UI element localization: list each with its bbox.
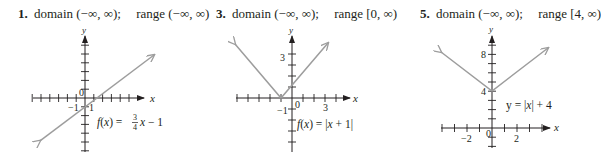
y-axis xyxy=(288,36,296,152)
x-axis xyxy=(32,94,144,102)
x-axis-label: x xyxy=(553,121,559,133)
function-label: f(x) = xyxy=(97,116,122,129)
y-axis-label: y xyxy=(488,24,493,34)
graph-1: x y 0 −1 1 f(x) = 3 4 x − 1 xyxy=(32,25,163,152)
tick-label-0: 0 xyxy=(79,87,84,98)
graph-3: x y 3 0 −1 3 f(x) = |x + 1| xyxy=(235,25,358,152)
function-label-rest: x − 1 xyxy=(139,116,163,128)
fraction-numerator: 3 xyxy=(133,113,137,122)
function-label: f(x) = |x + 1| xyxy=(297,118,353,131)
tick-label-y3: 3 xyxy=(280,52,285,63)
tick-label-neg2: −2 xyxy=(461,133,472,144)
tick-label-2: 2 xyxy=(514,133,519,144)
function-label: y = |x| + 4 xyxy=(506,99,552,112)
y-axis-label: y xyxy=(288,25,293,35)
x-axis-label: x xyxy=(352,92,358,104)
tick-label-y4: 4 xyxy=(481,86,486,97)
fraction-denominator: 4 xyxy=(133,123,137,132)
tick-label-neg1: −1 xyxy=(277,105,288,116)
y-axis-label: y xyxy=(81,25,86,35)
tick-label-y8: 8 xyxy=(481,49,486,60)
x-axis xyxy=(236,94,350,102)
tick-label-3: 3 xyxy=(323,102,328,113)
tick-label-neg1: −1 xyxy=(68,102,79,113)
x-axis-label: x xyxy=(149,92,155,104)
tick-label-1: 1 xyxy=(89,102,94,113)
x-axis xyxy=(441,124,550,132)
tick-label-0: 0 xyxy=(295,99,300,110)
tick-label-0: 0 xyxy=(486,128,491,139)
graph-5: x y 8 4 0 −2 2 y = |x| + 4 xyxy=(441,24,559,148)
